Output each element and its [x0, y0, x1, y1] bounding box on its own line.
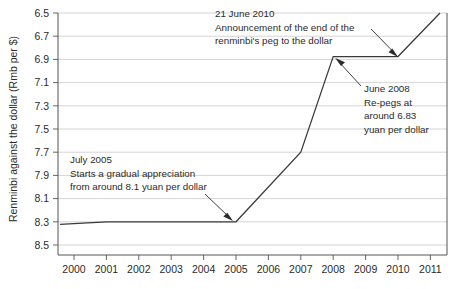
annotation-2010-line-1: 21 June 2010: [215, 8, 275, 19]
y-tick-label: 8.3: [34, 216, 49, 228]
annotation-2008-line-1: June 2008: [364, 83, 410, 94]
annotation-2010-line-2: Announcement of the end of the: [215, 22, 355, 33]
x-tick-label: 2000: [62, 263, 86, 275]
y-tick-marks: [53, 13, 58, 245]
annotation-2005-leader: [205, 194, 229, 217]
x-tick-label: 2002: [127, 263, 151, 275]
annotation-2008-line-4: yuan per dollar: [364, 124, 430, 135]
annotation-2010-line-3: renminbi's peg to the dollar: [215, 35, 333, 46]
annotation-2005: July 2005 Starts a gradual appreciation …: [70, 154, 233, 221]
annotation-2008-line-2: Re-pegs at: [364, 97, 412, 108]
y-tick-label: 7.5: [34, 123, 49, 135]
annotation-2008: June 2008 Re-pegs at around 6.83 yuan pe…: [335, 58, 429, 135]
annotation-2010-leader: [371, 29, 395, 53]
annotation-2008-line-3: around 6.83: [364, 110, 417, 121]
y-tick-label: 8.1: [34, 192, 49, 204]
x-tick-label: 2007: [289, 263, 313, 275]
annotation-2010: 21 June 2010 Announcement of the end of …: [215, 8, 398, 57]
annotation-2005-line-1: July 2005: [70, 154, 112, 165]
x-tick-label: 2009: [354, 263, 378, 275]
annotation-2005-arrowhead: [223, 213, 233, 221]
chart-container: 6.5 6.7 6.9 7.1 7.3 7.5 7.7 7.9 8.1 8.3 …: [0, 0, 459, 289]
x-tick-label: 2010: [386, 263, 410, 275]
y-tick-label: 6.7: [34, 30, 49, 42]
y-tick-label: 7.7: [34, 146, 49, 158]
y-axis-title: Renminbi against the dollar (Rmb per $): [7, 36, 19, 222]
x-tick-label: 2003: [160, 263, 184, 275]
annotation-2005-line-2: Starts a gradual appreciation: [70, 168, 195, 179]
annotation-2005-line-3: from around 8.1 yuan per dollar: [70, 181, 207, 192]
x-tick-labels: 2000 2001 2002 2003 2004 2005 2006 2007 …: [62, 263, 442, 275]
y-tick-label: 6.9: [34, 53, 49, 65]
y-tick-label: 6.5: [34, 7, 49, 19]
x-tick-label: 2006: [257, 263, 281, 275]
x-tick-label: 2004: [192, 263, 216, 275]
x-tick-marks: [74, 255, 430, 260]
x-tick-label: 2001: [95, 263, 119, 275]
y-tick-label: 7.9: [34, 169, 49, 181]
annotation-2010-arrowhead: [389, 49, 398, 58]
x-tick-label: 2008: [322, 263, 346, 275]
y-tick-label: 7.3: [34, 100, 49, 112]
x-tick-label: 2011: [419, 263, 442, 275]
y-tick-label: 7.1: [34, 76, 49, 88]
y-tick-label: 8.5: [34, 239, 49, 251]
y-tick-labels: 6.5 6.7 6.9 7.1 7.3 7.5 7.7 7.9 8.1 8.3 …: [34, 7, 49, 251]
x-tick-label: 2005: [224, 263, 248, 275]
line-chart: 6.5 6.7 6.9 7.1 7.3 7.5 7.7 7.9 8.1 8.3 …: [0, 0, 459, 289]
